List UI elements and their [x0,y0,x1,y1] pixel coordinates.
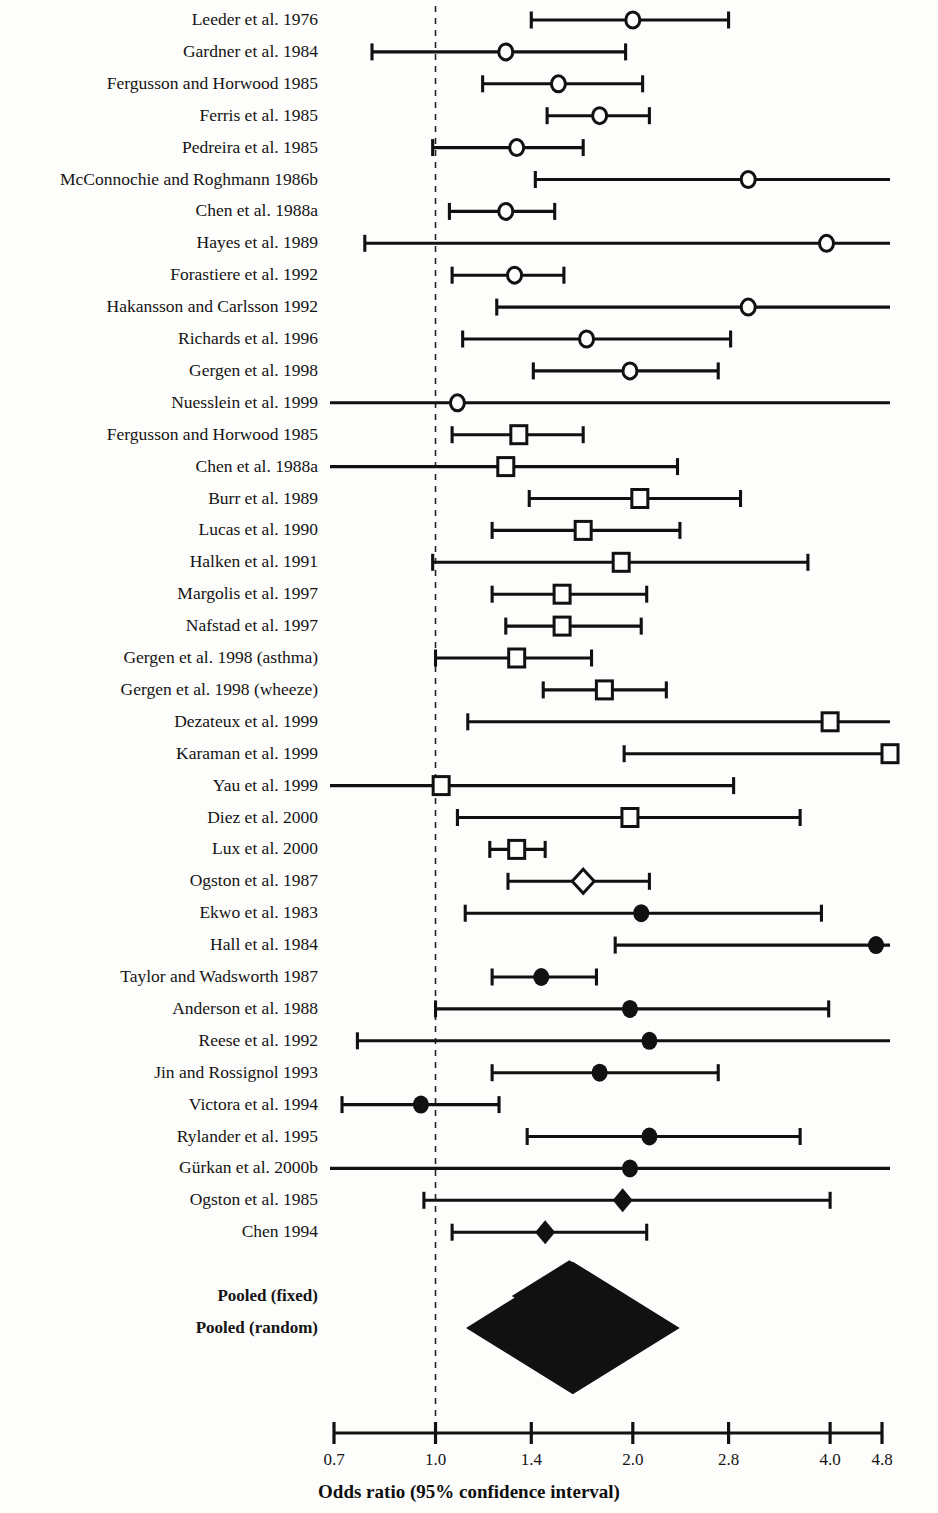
open-square-marker [632,490,648,508]
open-square-marker [554,585,570,603]
study-label: Fergusson and Horwood 1985 [107,426,318,444]
forest-row [506,617,641,635]
study-label: Halken et al. 1991 [190,553,318,571]
open-circle-marker [820,235,834,251]
open-square-marker [622,809,638,827]
filled-circle-marker [413,1096,429,1114]
forest-row [436,1000,829,1018]
forest-row [357,1032,890,1050]
forest-row [529,490,740,508]
study-label: Nafstad et al. 1997 [186,617,318,635]
open-square-marker [822,713,838,731]
study-label: Margolis et al. 1997 [177,585,318,603]
filled-circle-marker [622,1000,638,1018]
filled-circle-marker [592,1064,608,1082]
study-label: Lucas et al. 1990 [198,521,318,539]
forest-row [465,904,821,922]
forest-row [449,203,554,220]
filled-circle-marker [641,1032,657,1050]
forest-row [624,745,898,763]
study-label: Leeder et al. 1976 [192,11,318,29]
study-label: Gergen et al. 1998 [189,362,318,380]
study-label: Pooled (fixed) [217,1287,318,1304]
study-label: Dezateux et al. 1999 [174,713,318,731]
study-label: Gergen et al. 1998 (asthma) [123,649,318,667]
study-label: Anderson et al. 1988 [172,1000,318,1018]
forest-row [533,362,718,379]
open-circle-marker [499,44,513,60]
x-axis-tick-label: 0.7 [304,1450,364,1470]
open-square-marker [882,745,898,763]
open-square-marker [596,681,612,699]
forest-plot: Leeder et al. 1976Gardner et al. 1984Fer… [0,0,938,1513]
open-square-marker [575,521,591,539]
study-label: Yau et al. 1999 [213,777,318,795]
forest-row [508,869,649,893]
study-label: Fergusson and Horwood 1985 [107,75,318,93]
study-label: Chen et al. 1988a [196,458,318,476]
forest-row [466,1262,680,1395]
open-square-marker [498,458,514,476]
study-label: Gardner et al. 1984 [183,43,318,61]
study-label: Taylor and Wadsworth 1987 [120,968,318,986]
filled-circle-marker [533,968,549,986]
forest-row [365,235,890,252]
study-label: Ferris et al. 1985 [199,107,318,125]
forest-row [424,1188,830,1212]
forest-plot-canvas [0,0,938,1513]
study-label: Nuesslein et al. 1999 [171,394,318,412]
forest-row [483,75,643,92]
study-label: Pedreira et al. 1985 [182,139,318,157]
forest-row [492,968,596,986]
forest-row [452,1220,647,1244]
open-circle-marker [551,76,565,92]
x-axis-tick-label: 2.8 [699,1450,759,1470]
forest-row [433,139,584,156]
forest-row [497,299,890,316]
x-axis-tick-label: 1.0 [406,1450,466,1470]
study-label: Chen et al. 1988a [196,202,318,220]
forest-row [452,267,564,284]
forest-row [492,521,680,539]
forest-row [452,426,583,444]
forest-row [468,713,890,731]
open-circle-marker [741,172,755,188]
forest-row [535,171,890,188]
study-label: Pooled (random) [196,1319,318,1336]
forest-row [543,681,666,699]
study-label: Richards et al. 1996 [178,330,318,348]
filled-diamond-marker [613,1188,633,1212]
open-square-marker [509,649,525,667]
forest-row [531,12,728,29]
study-label: Jin and Rossignol 1993 [154,1064,318,1082]
x-axis-tick-label: 1.4 [501,1450,561,1470]
open-circle-marker [593,108,607,124]
study-label: Gürkan et al. 2000b [179,1159,318,1177]
forest-row [330,777,734,795]
forest-row [463,331,731,348]
study-label: Gergen et al. 1998 (wheeze) [121,681,318,699]
open-circle-marker [499,203,513,219]
open-square-marker [433,777,449,795]
forest-row [433,553,808,571]
study-label: McConnochie and Roghmann 1986b [60,171,318,189]
study-label: Lux et al. 2000 [212,840,318,858]
x-axis-tick-label: 2.0 [603,1450,663,1470]
filled-diamond-marker [535,1220,555,1244]
study-label: Hall et al. 1984 [210,936,318,954]
forest-row [492,585,647,603]
open-circle-marker [580,331,594,347]
pooled-estimate-diamond [466,1262,680,1395]
study-label: Chen 1994 [242,1223,318,1241]
filled-circle-marker [868,936,884,954]
forest-row [330,1159,890,1177]
open-square-marker [554,617,570,635]
forest-row [372,43,626,60]
open-circle-marker [508,267,522,283]
open-circle-marker [450,395,464,411]
open-circle-marker [623,363,637,379]
study-label: Ekwo et al. 1983 [199,904,318,922]
forest-row [527,1128,800,1146]
forest-row [547,107,649,124]
filled-circle-marker [622,1159,638,1177]
